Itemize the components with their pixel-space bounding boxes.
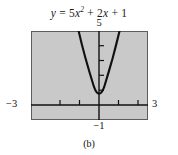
x-max-label: 3 (152, 99, 157, 110)
equation-exponent: 2 (80, 5, 84, 14)
y-max-label: 5 (10, 18, 178, 29)
graph-svg (31, 31, 148, 120)
figure-caption: (b) (0, 139, 178, 149)
y-axis-ticks (99, 46, 104, 90)
plot-area (31, 31, 148, 120)
x-min-label: −3 (6, 99, 17, 110)
figure-container: y = 5x2 + 2x + 1 5 (0, 0, 178, 155)
y-min-label: −1 (10, 121, 178, 132)
